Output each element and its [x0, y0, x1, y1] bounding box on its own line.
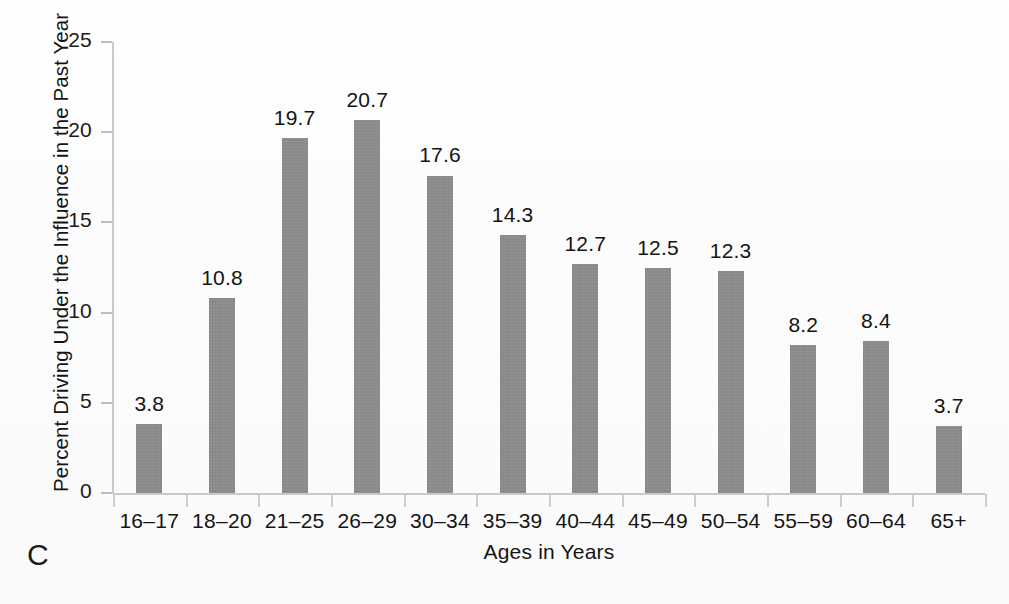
x-axis-tick — [186, 494, 188, 507]
bar-value-label: 3.8 — [109, 392, 189, 416]
x-axis-tick — [985, 494, 987, 507]
bar-value-label: 12.3 — [691, 239, 771, 263]
bar-value-label: 10.8 — [182, 266, 262, 290]
x-axis-category-label: 65+ — [894, 509, 1004, 533]
bar — [136, 424, 162, 493]
bar-value-label: 19.7 — [255, 106, 335, 130]
bar — [936, 426, 962, 493]
x-axis-tick — [622, 494, 624, 507]
bar — [209, 298, 235, 493]
x-axis-tick — [549, 494, 551, 507]
y-axis-title-host: Percent Driving Under the Influence in t… — [22, 0, 23, 530]
bar-value-label: 17.6 — [400, 143, 480, 167]
y-axis-tick — [101, 131, 112, 133]
bar — [572, 264, 598, 493]
x-axis-tick — [694, 494, 696, 507]
bar-value-label: 8.2 — [763, 313, 843, 337]
x-axis-tick — [113, 494, 115, 507]
bar — [427, 176, 453, 494]
bar — [354, 120, 380, 493]
bar — [718, 271, 744, 493]
y-axis-tick — [101, 221, 112, 223]
bar — [282, 138, 308, 493]
bar-value-label: 12.7 — [545, 232, 625, 256]
y-axis-tick — [101, 41, 112, 43]
panel-label: C — [27, 538, 49, 572]
bar — [645, 268, 671, 494]
bar-value-label: 8.4 — [836, 309, 916, 333]
bar-value-label: 14.3 — [473, 203, 553, 227]
y-axis-tick — [101, 312, 112, 314]
y-axis-tick — [101, 492, 112, 494]
x-axis-title: Ages in Years — [113, 540, 985, 564]
x-axis-tick — [912, 494, 914, 507]
bar-value-label: 12.5 — [618, 236, 698, 260]
bar-value-label: 3.7 — [909, 394, 989, 418]
bar — [863, 341, 889, 493]
x-axis-tick — [258, 494, 260, 507]
x-axis-tick — [331, 494, 333, 507]
x-axis-tick — [840, 494, 842, 507]
y-axis-title: Percent Driving Under the Influence in t… — [49, 22, 73, 492]
figure-panel: 0510152025 3.810.819.720.717.614.312.712… — [0, 0, 1009, 604]
x-axis-tick — [476, 494, 478, 507]
bar — [790, 345, 816, 493]
bar-value-label: 20.7 — [327, 88, 407, 112]
x-axis-tick — [767, 494, 769, 507]
x-axis-tick — [404, 494, 406, 507]
bar — [500, 235, 526, 493]
